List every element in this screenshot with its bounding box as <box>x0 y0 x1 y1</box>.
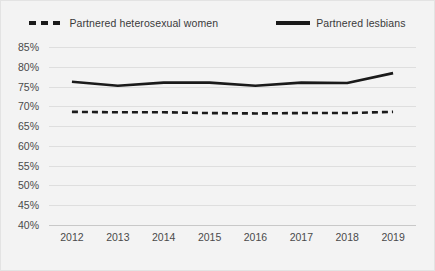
x-axis-tick-label: 2014 <box>141 231 187 247</box>
plot-area <box>49 47 416 225</box>
x-axis-tick-label: 2015 <box>187 231 233 247</box>
dashed-line-swatch-icon <box>29 21 63 24</box>
legend-label-partnered-heterosexual-women: Partnered heterosexual women <box>69 17 218 29</box>
y-axis-tick-label: 55% <box>18 160 39 172</box>
y-axis: 85%80%75%70%65%60%55%50%45%40% <box>1 47 45 225</box>
legend-item-partnered-lesbians[interactable]: Partnered lesbians <box>276 17 405 29</box>
x-axis: 20122013201420152016201720182019 <box>49 231 416 247</box>
y-axis-tick-label: 75% <box>18 81 39 93</box>
y-axis-tick-label: 85% <box>18 41 39 53</box>
solid-line-swatch-icon <box>276 21 310 24</box>
series-line-partnered-heterosexual-women <box>72 112 393 114</box>
y-axis-tick-label: 60% <box>18 140 39 152</box>
series-layer <box>49 47 416 225</box>
legend-item-partnered-heterosexual-women[interactable]: Partnered heterosexual women <box>29 17 218 29</box>
x-axis-tick-label: 2016 <box>233 231 279 247</box>
x-axis-tick-label: 2019 <box>370 231 416 247</box>
chart-legend: Partnered heterosexual women Partnered l… <box>1 15 434 31</box>
x-axis-tick-label: 2013 <box>95 231 141 247</box>
gridline <box>49 225 416 226</box>
y-axis-tick-label: 70% <box>18 100 39 112</box>
y-axis-tick-label: 50% <box>18 179 39 191</box>
x-axis-tick-label: 2017 <box>278 231 324 247</box>
series-line-partnered-lesbians <box>72 73 393 86</box>
y-axis-tick-label: 65% <box>18 120 39 132</box>
line-chart: Partnered heterosexual women Partnered l… <box>0 0 435 271</box>
y-axis-tick-label: 45% <box>18 199 39 211</box>
y-axis-tick-label: 80% <box>18 61 39 73</box>
x-axis-tick-label: 2018 <box>324 231 370 247</box>
x-axis-tick-label: 2012 <box>49 231 95 247</box>
legend-label-partnered-lesbians: Partnered lesbians <box>316 17 405 29</box>
y-axis-tick-label: 40% <box>18 219 39 231</box>
